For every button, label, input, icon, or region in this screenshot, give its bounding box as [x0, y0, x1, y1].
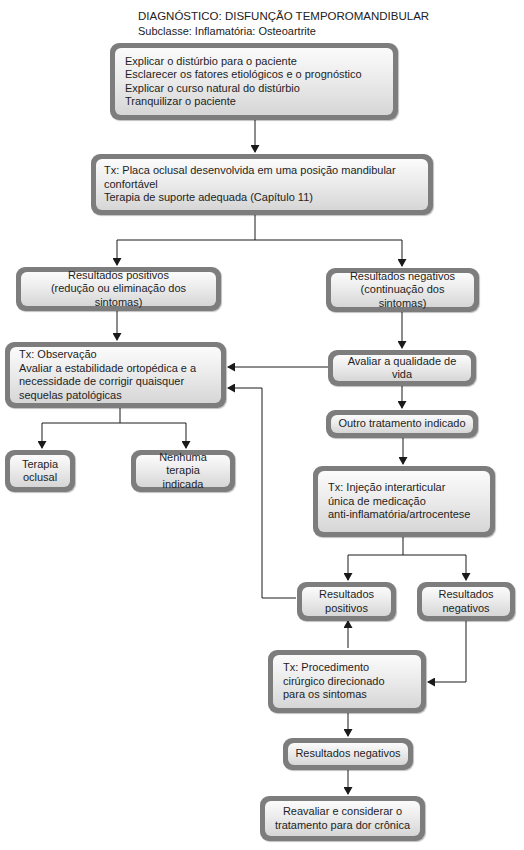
tx-splint-line-1: Tx: Placa oclusal desenvolvida em uma po… [104, 164, 422, 191]
tx-observation-line-1: Tx: Observação [19, 348, 97, 362]
negative-results-2-line-1: Resultados [438, 588, 493, 602]
tx-surgery-line-2: cirúrgico direcionado [283, 675, 385, 689]
negative-results-1-title: Resultados negativos [350, 270, 455, 284]
tx-observation-line-2: Avaliar a estabilidade ortopédica e a [19, 362, 196, 376]
positive-results-1-detail: (redução ou eliminação dos sintomas) [27, 282, 210, 309]
box-no-therapy: Nenhuma terapia indicada [131, 450, 235, 492]
step-reassure-patient: Tranquilizar o paciente [125, 95, 236, 109]
box-positive-results-2: Resultados positivos [297, 582, 396, 621]
reevaluate-line-2: tratamento para dor crônica [275, 819, 410, 833]
tx-surgery-line-3: para os sintomas [283, 688, 367, 702]
box-tx-observation: Tx: Observação Avaliar a estabilidade or… [5, 342, 226, 408]
step-explain-disorder: Explicar o distúrbio para o paciente [125, 55, 297, 69]
tx-surgery-line-1: Tx: Procedimento [283, 661, 369, 675]
box-initial-steps: Explicar o distúrbio para o paciente Esc… [110, 43, 398, 120]
box-other-treatment: Outro tratamento indicado [326, 410, 478, 438]
box-tx-surgery: Tx: Procedimento cirúrgico direcionado p… [268, 650, 426, 713]
negative-results-3-label: Resultados negativos [295, 747, 400, 761]
box-tx-injection: Tx: Injeção interarticular única de medi… [313, 466, 495, 537]
no-therapy-line-1: Nenhuma terapia [142, 451, 224, 478]
box-tx-splint: Tx: Placa oclusal desenvolvida em uma po… [91, 154, 433, 215]
occlusal-therapy-line-1: Terapia [22, 458, 58, 472]
tx-observation-line-3: necessidade de corrigir quaisquer [19, 375, 184, 389]
tx-splint-line-2: Terapia de suporte adequada (Capítulo 11… [104, 191, 313, 205]
tx-injection-line-3: anti-inflamatória/artrocentese [328, 508, 470, 522]
positive-results-2-line-2: positivos [325, 602, 368, 616]
box-negative-results-2: Resultados negativos [417, 582, 515, 621]
tx-injection-line-1: Tx: Injeção interarticular [328, 481, 445, 495]
box-negative-results-1: Resultados negativos (continuação dos si… [326, 268, 479, 312]
box-negative-results-3: Resultados negativos [283, 738, 413, 770]
step-natural-course: Explicar o curso natural do distúrbio [125, 82, 300, 96]
positive-results-2-line-1: Resultados [319, 588, 374, 602]
occlusal-therapy-line-2: oclusal [23, 471, 57, 485]
tx-observation-line-4: sequelas patológicas [19, 389, 122, 403]
box-positive-results-1: Resultados positivos (redução ou elimina… [16, 267, 221, 311]
reevaluate-line-1: Reavaliar e considerar o [283, 805, 402, 819]
tx-injection-line-2: única de medicação [328, 495, 426, 509]
box-quality-of-life: Avaliar a qualidade de vida [328, 350, 476, 386]
positive-results-1-title: Resultados positivos [68, 269, 169, 283]
step-clarify-factors: Esclarecer os fatores etiológicos e o pr… [125, 68, 362, 82]
box-occlusal-therapy: Terapia oclusal [5, 450, 75, 492]
negative-results-2-line-2: negativos [442, 602, 489, 616]
negative-results-1-detail: (continuação dos sintomas) [337, 283, 468, 310]
quality-of-life-label: Avaliar a qualidade de vida [339, 355, 465, 382]
box-reevaluate: Reavaliar e considerar o tratamento para… [260, 796, 425, 841]
other-treatment-label: Outro tratamento indicado [338, 417, 465, 431]
no-therapy-line-2: indicada [163, 478, 204, 492]
